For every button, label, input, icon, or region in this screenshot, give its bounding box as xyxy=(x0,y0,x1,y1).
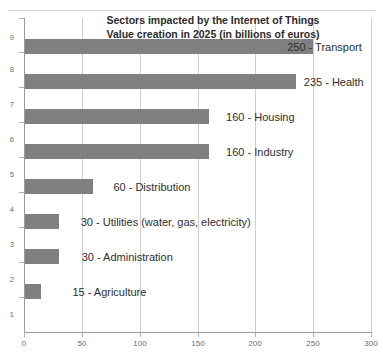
bar-row-distribution: 60 - Distribution xyxy=(24,179,190,194)
bar-utilities xyxy=(24,214,59,229)
x-tick-mark-150 xyxy=(198,332,199,337)
x-tick-mark-0 xyxy=(24,332,25,337)
bar-row-agriculture: 15 - Agriculture xyxy=(24,284,146,299)
bar-agriculture xyxy=(24,284,41,299)
bar-row-utilities: 30 - Utilities (water, gas, electricity) xyxy=(24,214,251,229)
x-tick-label-250: 250 xyxy=(293,340,333,348)
bar-label-housing: 160 - Housing xyxy=(226,111,295,123)
y-tick-mark-6 xyxy=(19,122,24,123)
gridline-150 xyxy=(198,18,199,332)
y-tick-mark-7 xyxy=(19,87,24,88)
y-tick-label-7: 7 xyxy=(0,101,14,109)
bar-label-agriculture: 15 - Agriculture xyxy=(72,286,146,298)
bar-health xyxy=(24,74,296,89)
y-tick-mark-3 xyxy=(19,227,24,228)
bar-row-transport: 250 - Transport xyxy=(24,39,362,54)
bar-housing xyxy=(24,109,209,124)
x-tick-label-0: 0 xyxy=(4,340,44,348)
bar-industry xyxy=(24,144,209,159)
bar-row-housing: 160 - Housing xyxy=(24,109,295,124)
y-tick-label-5: 5 xyxy=(0,171,14,179)
bar-distribution xyxy=(24,179,93,194)
x-tick-mark-100 xyxy=(140,332,141,337)
y-tick-label-8: 8 xyxy=(0,66,14,74)
y-tick-label-1: 1 xyxy=(0,311,14,319)
bar-row-health: 235 - Health xyxy=(24,74,364,89)
bar-label-transport: 250 - Transport xyxy=(287,41,362,53)
y-tick-mark-5 xyxy=(19,157,24,158)
y-tick-mark-8 xyxy=(19,52,24,53)
y-tick-mark-2 xyxy=(19,262,24,263)
page-scan-rule xyxy=(8,10,375,11)
gridline-300 xyxy=(371,18,372,332)
x-tick-label-150: 150 xyxy=(178,340,218,348)
chart-title: Sectors impacted by the Internet of Thin… xyxy=(88,13,338,41)
chart-title-line-1: Sectors impacted by the Internet of Thin… xyxy=(88,13,338,27)
bar-label-administration: 30 - Administration xyxy=(82,251,173,263)
gridline-200 xyxy=(255,18,256,332)
x-tick-mark-50 xyxy=(82,332,83,337)
y-tick-label-4: 4 xyxy=(0,206,14,214)
x-tick-mark-200 xyxy=(255,332,256,337)
y-tick-mark-4 xyxy=(19,192,24,193)
x-tick-mark-300 xyxy=(371,332,372,337)
x-tick-mark-250 xyxy=(313,332,314,337)
bar-transport xyxy=(24,39,313,54)
x-tick-label-100: 100 xyxy=(120,340,160,348)
x-tick-label-200: 200 xyxy=(235,340,275,348)
plot-area: 15 - Agriculture 30 - Administration 30 … xyxy=(24,18,371,332)
y-tick-label-2: 2 xyxy=(0,276,14,284)
y-tick-mark-9 xyxy=(19,18,24,19)
y-tick-mark-1 xyxy=(19,297,24,298)
y-tick-label-9: 9 xyxy=(0,34,14,42)
bar-label-industry: 160 - Industry xyxy=(226,146,293,158)
bar-row-administration: 30 - Administration xyxy=(24,249,173,264)
y-tick-label-3: 3 xyxy=(0,241,14,249)
chart-title-line-2: Value creation in 2025 (in billions of e… xyxy=(88,27,338,41)
bar-label-health: 235 - Health xyxy=(304,76,364,88)
bar-row-industry: 160 - Industry xyxy=(24,144,293,159)
x-tick-label-300: 300 xyxy=(351,340,383,348)
y-tick-label-6: 6 xyxy=(0,136,14,144)
x-tick-label-50: 50 xyxy=(62,340,102,348)
bar-administration xyxy=(24,249,59,264)
y-axis-line xyxy=(24,18,25,334)
bar-label-distribution: 60 - Distribution xyxy=(113,181,190,193)
bar-label-utilities: 30 - Utilities (water, gas, electricity) xyxy=(81,216,251,228)
gridline-250 xyxy=(313,18,314,332)
